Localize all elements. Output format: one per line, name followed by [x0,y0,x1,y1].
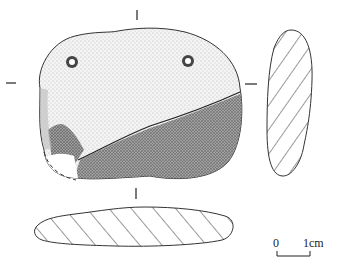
scale-bar [277,251,310,256]
perforation-right [182,55,194,67]
artifact-side-section [267,30,312,176]
perforation-left [66,56,78,68]
artifact-front-view [39,28,250,190]
artifact-bottom-section [35,207,234,246]
scale-end-label: 1cm [303,236,324,251]
artifact-drawing [0,0,337,276]
scale-start-label: 0 [273,236,279,251]
